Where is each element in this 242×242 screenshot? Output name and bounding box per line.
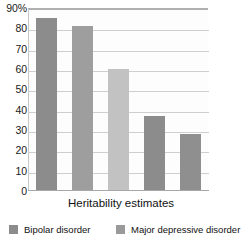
legend-entry[interactable]: Bipolar disorder bbox=[9, 222, 91, 236]
y-axis-tick-label: 50 bbox=[1, 84, 27, 94]
bar bbox=[36, 18, 57, 191]
y-axis-tick-label: 20 bbox=[1, 145, 27, 155]
x-axis-baseline bbox=[28, 190, 209, 191]
chart-legend: Bipolar disorderMajor depressive disorde… bbox=[0, 222, 242, 236]
heritability-bar-chart: 90%80706050403020100 Heritability estima… bbox=[0, 0, 242, 242]
y-axis-tick-label: 70 bbox=[1, 44, 27, 54]
bar bbox=[108, 69, 129, 191]
legend-swatch-icon bbox=[9, 225, 18, 234]
legend-entry[interactable]: Major depressive disorder bbox=[116, 222, 240, 236]
y-axis-tick-label: 90% bbox=[1, 3, 27, 13]
bar bbox=[180, 134, 201, 191]
bar bbox=[144, 116, 165, 191]
y-axis-tick-label: 0 bbox=[1, 186, 27, 196]
y-axis-tick-label: 60 bbox=[1, 64, 27, 74]
bars-layer bbox=[28, 8, 208, 191]
legend-label: Major depressive disorder bbox=[131, 224, 240, 235]
y-axis-tick-label: 40 bbox=[1, 105, 27, 115]
x-axis-title: Heritability estimates bbox=[0, 197, 242, 209]
legend-label: Bipolar disorder bbox=[24, 224, 91, 235]
y-axis-tick-label: 80 bbox=[1, 23, 27, 33]
bar bbox=[72, 26, 93, 191]
y-axis-tick-label: 30 bbox=[1, 125, 27, 135]
y-axis-tick-label: 10 bbox=[1, 166, 27, 176]
legend-swatch-icon bbox=[116, 225, 125, 234]
